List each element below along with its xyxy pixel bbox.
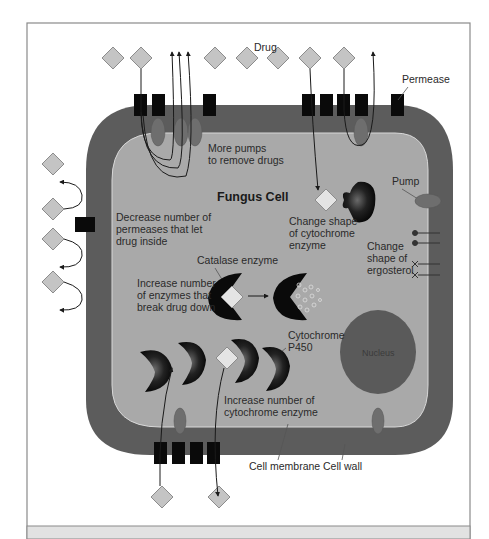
- change-erg-label-3: ergosterol: [367, 264, 414, 276]
- cytochrome-label-2: P450: [288, 341, 313, 353]
- permease-left: [75, 217, 95, 232]
- increase-enz-label-2: of enzymes that: [137, 289, 211, 301]
- change-cyt-label-3: enzyme: [289, 239, 326, 251]
- increase-enz-label-3: break drug down: [137, 301, 215, 313]
- change-erg-label-1: Change: [367, 240, 404, 252]
- cell-wall-label: Cell wall: [323, 460, 362, 472]
- decrease-label-2: permeases that let: [116, 223, 202, 235]
- fungus-cell-title: Fungus Cell: [217, 190, 289, 204]
- nucleus-label: Nucleus: [362, 348, 395, 358]
- permease-label: Permease: [402, 73, 450, 85]
- change-cyt-label-1: Change shape: [289, 215, 357, 227]
- increase-enz-label-1: Increase number: [137, 277, 216, 289]
- drug-label: Drug: [254, 41, 277, 53]
- change-cyt-label-2: of cytochrome: [289, 227, 355, 239]
- cytochrome-label-1: Cytochrome: [288, 329, 345, 341]
- catalase-label: Catalase enzyme: [197, 254, 278, 266]
- change-erg-label-2: shape of: [367, 252, 407, 264]
- pump-label: Pump: [392, 175, 420, 187]
- pump-side: [415, 194, 441, 208]
- decrease-label-3: drug inside: [116, 235, 168, 247]
- fungus-cell-diagram: Drug Permease More pumps to remove drugs…: [0, 0, 489, 539]
- more-pumps-label-2: to remove drugs: [208, 154, 284, 166]
- increase-cyt-label-2: cytochrome enzyme: [224, 406, 318, 418]
- more-pumps-label-1: More pumps: [208, 142, 266, 154]
- increase-cyt-label-1: Increase number of: [224, 394, 315, 406]
- cell-membrane-label: Cell membrane: [249, 460, 320, 472]
- decrease-label-1: Decrease number of: [116, 211, 211, 223]
